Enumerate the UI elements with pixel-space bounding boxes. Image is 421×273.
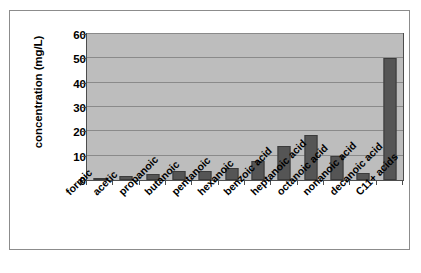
- chart-frame: concentration (mg/L) 0102030405060 formi…: [9, 10, 410, 250]
- bar-slot: [113, 34, 139, 180]
- bar-slot: [166, 34, 192, 180]
- y-tick-label: 60: [60, 29, 86, 41]
- y-tick-label: 10: [60, 151, 86, 163]
- y-axis-title: concentration (mg/L): [32, 12, 44, 172]
- x-tick-mark: [402, 181, 403, 185]
- chart-figure: concentration (mg/L) 0102030405060 formi…: [0, 0, 421, 273]
- y-tick-label: 20: [60, 126, 86, 138]
- y-tick-label: 50: [60, 53, 86, 65]
- bar-slot: [219, 34, 245, 180]
- y-tick-label: 40: [60, 78, 86, 90]
- bar-slot: [87, 34, 113, 180]
- y-axis-ticks: 0102030405060: [54, 33, 86, 181]
- y-tick-label: 30: [60, 102, 86, 114]
- bars-container: [87, 34, 403, 180]
